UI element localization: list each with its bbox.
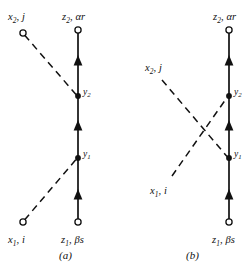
endpoint-circle-z2 — [75, 27, 81, 33]
label-y1: y1 — [233, 149, 242, 160]
caption-panel-a: (a) — [59, 249, 72, 262]
endpoint-circle-z1 — [226, 219, 232, 225]
endpoint-circle-z1 — [75, 219, 81, 225]
label-z2-alpha-r: z2, αr — [61, 11, 86, 25]
vertex-dot-y2 — [226, 93, 232, 99]
endpoint-circle-x1i — [20, 219, 26, 225]
endpoint-circle-z2 — [226, 27, 232, 33]
panel-a: x2, j z2, αr x1, i z1, βs y2 y1 (a) — [7, 11, 91, 262]
propagator-arrowhead-middle — [74, 120, 83, 131]
label-x1i: x1, i — [149, 185, 167, 199]
label-x1i: x1, i — [7, 234, 25, 248]
vertex-dot-y1 — [75, 155, 81, 161]
external-line-x2j — [25, 35, 77, 95]
panel-b: x2, j z2, αr x1, i z1, βs y2 y1 (b) — [144, 11, 242, 262]
label-z1-beta-s: z1, βs — [60, 234, 84, 248]
label-y2: y2 — [233, 87, 242, 98]
caption-panel-b: (b) — [186, 249, 199, 262]
propagator-arrowhead-middle — [225, 120, 234, 131]
label-y1: y1 — [82, 149, 91, 160]
propagator-arrowhead-lower — [225, 189, 234, 200]
propagator-arrowhead-lower — [74, 189, 83, 200]
propagator-arrowhead-upper — [225, 55, 234, 66]
label-z1-beta-s: z1, βs — [211, 234, 235, 248]
diagram-canvas: x2, j z2, αr x1, i z1, βs y2 y1 (a) — [0, 0, 252, 272]
endpoint-circle-x2j — [20, 30, 26, 36]
label-x2j: x2, j — [7, 11, 25, 25]
external-line-x1i — [172, 98, 227, 177]
label-y2: y2 — [82, 87, 91, 98]
label-x2j: x2, j — [144, 62, 162, 76]
label-z2-alpha-r: z2, αr — [212, 11, 237, 25]
figure-root: x2, j z2, αr x1, i z1, βs y2 y1 (a) — [0, 0, 252, 272]
propagator-arrowhead-upper — [74, 55, 83, 66]
external-line-x1i — [25, 160, 77, 221]
